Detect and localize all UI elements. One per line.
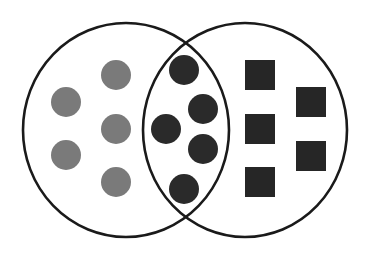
gray-circle-item	[101, 60, 131, 90]
dark-circle-item	[169, 55, 199, 85]
gray-circle-item	[51, 140, 81, 170]
items-layer	[51, 55, 326, 204]
dark-square-item	[296, 141, 326, 171]
gray-circle-item	[101, 114, 131, 144]
gray-circle-item	[101, 167, 131, 197]
venn-svg	[0, 0, 365, 259]
dark-circle-item	[188, 94, 218, 124]
dark-circle-item	[169, 174, 199, 204]
dark-circle-item	[151, 114, 181, 144]
dark-square-item	[245, 167, 275, 197]
dark-square-item	[296, 87, 326, 117]
dark-square-item	[245, 60, 275, 90]
gray-circle-item	[51, 87, 81, 117]
venn-diagram	[0, 0, 365, 259]
dark-circle-item	[188, 134, 218, 164]
dark-square-item	[245, 114, 275, 144]
